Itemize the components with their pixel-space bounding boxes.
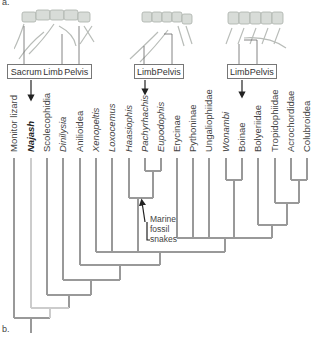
marine-fossil-snakes-annotation: Marine fossil snakes — [150, 214, 177, 244]
phylogenetic-tree — [0, 0, 322, 337]
